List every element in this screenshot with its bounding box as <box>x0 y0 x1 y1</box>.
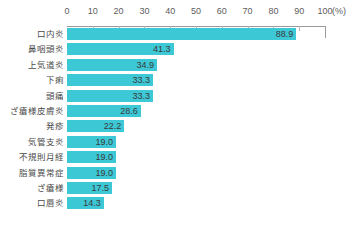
bar-row: 鼻咽頭炎41.3 <box>0 43 347 55</box>
bar-value-label: 88.9 <box>276 29 294 39</box>
x-tick-label: 70 <box>243 6 253 17</box>
bar-row: 頭痛33.3 <box>0 90 347 102</box>
category-label: 上気道炎 <box>28 60 64 70</box>
x-tick-label: 20 <box>114 6 124 17</box>
bar-value-label: 17.5 <box>92 183 110 193</box>
category-label: ざ瘡様皮膚炎 <box>10 106 64 116</box>
bar-row: ざ瘡様皮膚炎28.6 <box>0 105 347 117</box>
x-axis-unit-label: (%) <box>332 6 346 17</box>
x-tick-label: 0 <box>64 6 69 17</box>
bar-value-label: 41.3 <box>153 44 171 54</box>
bar-value-label: 34.9 <box>137 60 155 70</box>
bar-value-label: 19.0 <box>95 168 113 178</box>
x-tick-label: 40 <box>165 6 175 17</box>
category-label: 脂質異常症 <box>19 168 64 178</box>
bar-value-label: 19.0 <box>95 152 113 162</box>
category-label: 口内炎 <box>37 29 64 39</box>
bar-row: 口唇炎14.3 <box>0 197 347 209</box>
bar-row: 発疹22.2 <box>0 120 347 132</box>
bar-row: 脂質異常症19.0 <box>0 167 347 179</box>
category-label: 口唇炎 <box>37 198 64 208</box>
x-tick-label: 60 <box>217 6 227 17</box>
bar-row: 下痢33.3 <box>0 74 347 86</box>
bar-row: 上気道炎34.9 <box>0 59 347 71</box>
x-tick-label: 30 <box>139 6 149 17</box>
category-label: 不規則月経 <box>19 152 64 162</box>
category-label: 頭痛 <box>46 91 64 101</box>
bar-row: 口内炎88.9 <box>0 28 347 40</box>
bar-row: 気管支炎19.0 <box>0 136 347 148</box>
category-label: 気管支炎 <box>28 137 64 147</box>
bar-value-label: 33.3 <box>132 91 150 101</box>
footer-artifact <box>0 227 347 233</box>
x-tick-label: 90 <box>294 6 304 17</box>
bar-value-label: 22.2 <box>104 121 122 131</box>
x-axis-tick-labels: 0102030405060708090100 <box>0 6 347 19</box>
bar-chart: 0102030405060708090100 (%) 口内炎88.9鼻咽頭炎41… <box>0 0 347 233</box>
bar-value-label: 19.0 <box>95 137 113 147</box>
category-label: ざ瘡様 <box>37 183 64 193</box>
bar-value-label: 33.3 <box>132 75 150 85</box>
bar-value-label: 28.6 <box>120 106 138 116</box>
bar-value-label: 14.3 <box>83 198 101 208</box>
bar <box>67 28 296 40</box>
category-label: 発疹 <box>46 121 64 131</box>
bar-row: ざ瘡様17.5 <box>0 182 347 194</box>
x-tick-label: 100 <box>317 6 332 17</box>
x-tick-label: 50 <box>191 6 201 17</box>
x-tick-label: 10 <box>88 6 98 17</box>
category-label: 下痢 <box>46 75 64 85</box>
bar-row: 不規則月経19.0 <box>0 151 347 163</box>
x-tick-label: 80 <box>268 6 278 17</box>
category-label: 鼻咽頭炎 <box>28 44 64 54</box>
